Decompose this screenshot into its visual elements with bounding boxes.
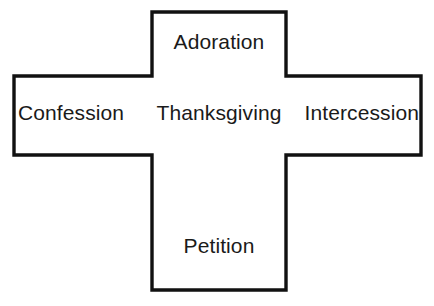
horizontal-label-row: Confession Thanksgiving Intercession	[14, 102, 421, 126]
label-petition: Petition	[152, 235, 286, 256]
diagram-canvas: Adoration Confession Thanksgiving Interc…	[0, 0, 434, 306]
label-adoration: Adoration	[152, 31, 286, 52]
label-confession: Confession	[18, 102, 124, 123]
label-thanksgiving: Thanksgiving	[152, 102, 286, 123]
label-intercession: Intercession	[305, 102, 419, 123]
